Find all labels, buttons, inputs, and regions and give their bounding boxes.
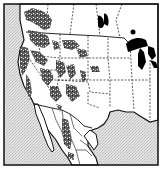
- range-map: [0, 0, 162, 177]
